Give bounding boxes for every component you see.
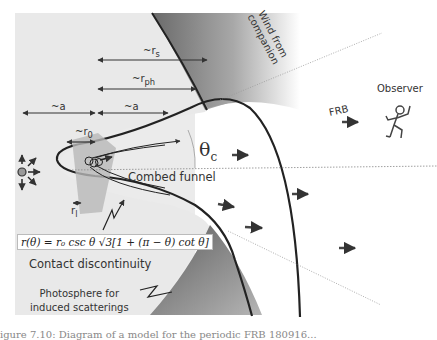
figure-caption: igure 7.10: Diagram of a model for the p… — [0, 329, 317, 340]
label-a-right: ~a — [124, 102, 139, 112]
label-r-s: ~rs — [143, 46, 160, 58]
observer-icon — [386, 106, 410, 138]
label-r-ph: ~rph — [132, 74, 155, 86]
label-combed-funnel: Combed funnel — [128, 172, 216, 184]
formula-r-theta: r(θ) = r₀ csc θ √3[1 + (π − θ) cot θ] — [17, 234, 213, 250]
label-r0: ~r0 — [75, 127, 93, 139]
label-contact-discontinuity: Contact discontinuity — [29, 259, 151, 271]
label-rl: rl — [71, 206, 77, 218]
flow-arrows — [218, 122, 358, 248]
label-theta-c: θc — [199, 140, 217, 163]
label-observer: Observer — [377, 84, 423, 94]
label-a-left: ~a — [51, 102, 66, 112]
label-photosphere: Photosphere for induced scatterings — [30, 287, 129, 315]
